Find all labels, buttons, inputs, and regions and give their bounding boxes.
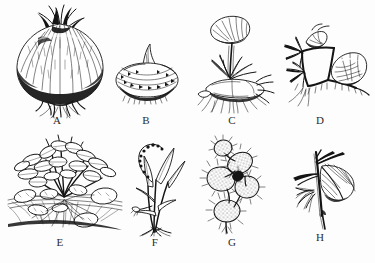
figure-d-label: D — [310, 115, 330, 126]
figure-b-corm — [112, 42, 182, 104]
figure-h-label: H — [310, 232, 330, 243]
figure-a-bulb — [8, 2, 112, 118]
figure-g-label: G — [222, 237, 242, 248]
figure-e-label: E — [50, 237, 70, 248]
figure-f-label: F — [145, 237, 165, 248]
illustration-plate: A — [0, 0, 375, 263]
figure-h-stem-cutting — [292, 150, 362, 230]
figure-c-label: C — [222, 115, 242, 126]
figure-e-tuber — [8, 134, 124, 236]
figure-g-pad-offset — [202, 136, 270, 234]
figure-d-stolon — [282, 22, 370, 114]
figure-b-label: B — [136, 115, 156, 126]
figure-a-label: A — [47, 115, 67, 126]
figure-f-bulbil — [128, 140, 186, 236]
figure-c-rhizome — [196, 12, 276, 114]
